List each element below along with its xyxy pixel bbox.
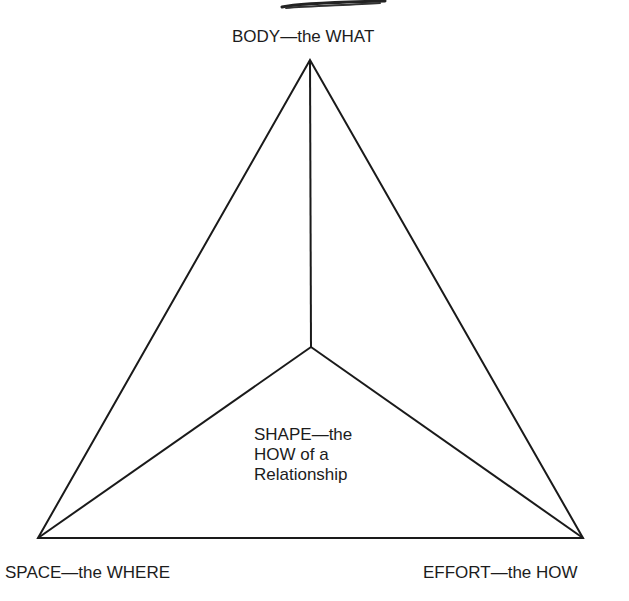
- vertex-label-effort: EFFORT—the HOW: [423, 563, 578, 583]
- triangle-figure: [0, 0, 629, 601]
- center-label-line-3: Relationship: [254, 465, 394, 485]
- center-label-line-2: HOW of a: [254, 445, 394, 465]
- center-label-shape: SHAPE—the HOW of a Relationship: [254, 425, 394, 485]
- vertex-label-body: BODY—the WHAT: [232, 27, 374, 47]
- vertex-label-space: SPACE—the WHERE: [5, 563, 170, 583]
- laban-triangle-diagram: BODY—the WHAT SPACE—the WHERE EFFORT—the…: [0, 0, 629, 601]
- line-top-to-center: [310, 60, 311, 347]
- center-label-line-1: SHAPE—the: [254, 425, 394, 445]
